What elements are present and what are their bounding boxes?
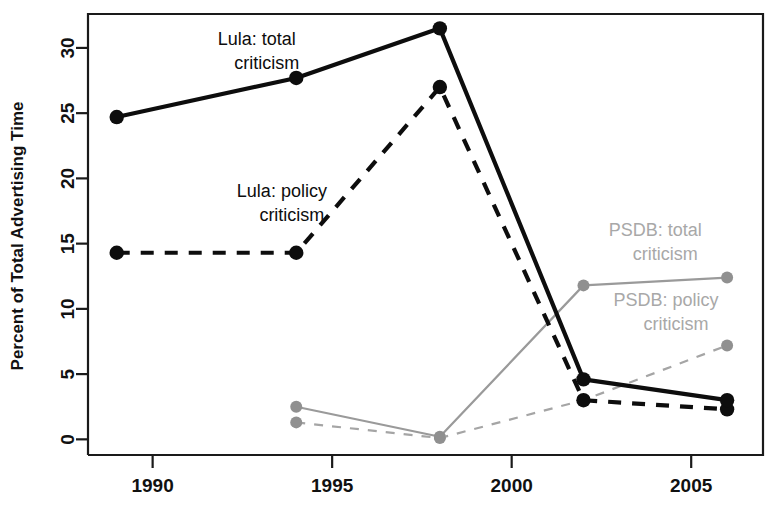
y-tick-label: 0 <box>58 434 79 445</box>
series-label-line2: criticism <box>259 205 324 225</box>
data-point <box>577 279 589 291</box>
x-tick-label: 1990 <box>131 475 173 496</box>
series-label-line1: PSDB: total <box>609 220 702 240</box>
series-label-0: Lula: totalcriticism <box>218 29 300 73</box>
y-tick-label: 25 <box>58 102 79 124</box>
data-point <box>290 416 302 428</box>
data-point <box>433 21 447 35</box>
series-label-line1: Lula: total <box>218 29 296 49</box>
y-tick-label: 15 <box>58 233 79 255</box>
data-point <box>110 246 124 260</box>
series-label-line2: criticism <box>633 244 698 264</box>
data-point <box>290 401 302 413</box>
chart-figure: Percent of Total Advertising Time 051015… <box>0 0 781 513</box>
y-tick-label: 5 <box>58 368 79 379</box>
y-tick-label: 10 <box>58 298 79 319</box>
data-point <box>720 393 734 407</box>
data-point <box>110 110 124 124</box>
data-point <box>576 393 590 407</box>
series-label-1: Lula: policycriticism <box>237 181 327 225</box>
y-axis-title: Percent of Total Advertising Time <box>8 102 27 371</box>
series-label-line2: criticism <box>234 53 299 73</box>
y-tick-label: 20 <box>58 168 79 189</box>
line-chart-canvas: Percent of Total Advertising Time 051015… <box>0 0 781 513</box>
y-axis-title-text: Percent of Total Advertising Time <box>8 102 27 371</box>
data-point <box>433 80 447 94</box>
series-label-line1: Lula: policy <box>237 181 327 201</box>
x-tick-label: 2005 <box>670 475 713 496</box>
series-label-line1: PSDB: policy <box>614 290 719 310</box>
series-label-3: PSDB: policycriticism <box>614 290 719 334</box>
x-tick-label: 2000 <box>491 475 533 496</box>
series-label-2: PSDB: totalcriticism <box>609 220 702 264</box>
data-point <box>576 372 590 386</box>
data-point <box>721 272 733 284</box>
data-point <box>289 246 303 260</box>
y-axis-ticks: 051015202530 <box>58 37 89 444</box>
series-label-line2: criticism <box>644 314 709 334</box>
x-tick-label: 1995 <box>311 475 354 496</box>
y-tick-label: 30 <box>58 37 79 58</box>
series-line-0 <box>117 28 727 400</box>
data-point <box>721 339 733 351</box>
data-point <box>434 432 446 444</box>
x-axis-ticks: 1990199520002005 <box>131 455 712 496</box>
